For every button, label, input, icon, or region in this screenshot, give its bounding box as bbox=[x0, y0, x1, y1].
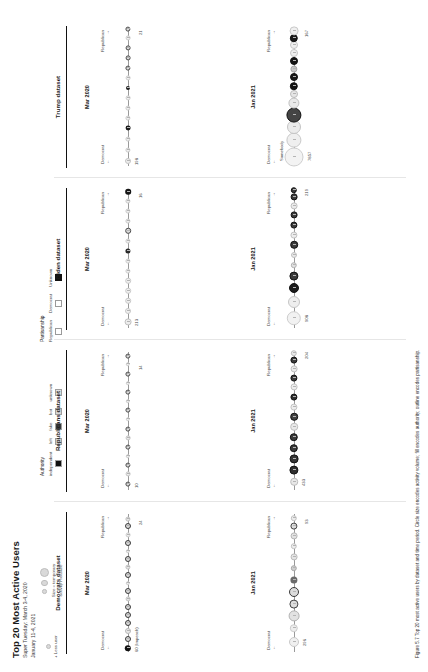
authority-legend-item-label: fake bbox=[48, 423, 53, 431]
axis-arrow-left-icon: ← bbox=[271, 631, 276, 650]
subtitle-line-1: Super Tuesday: March 3-4, 2020 bbox=[22, 508, 30, 658]
data-point[interactable] bbox=[285, 148, 304, 167]
data-point[interactable] bbox=[125, 319, 132, 326]
axis-tick bbox=[293, 591, 296, 592]
data-point[interactable] bbox=[290, 90, 298, 98]
axis-tick bbox=[293, 426, 296, 427]
data-point[interactable] bbox=[288, 296, 300, 308]
axis-tick bbox=[293, 30, 296, 31]
data-point[interactable] bbox=[286, 132, 301, 147]
axis-tick bbox=[293, 102, 296, 103]
data-point[interactable] bbox=[290, 57, 298, 65]
axis-tick bbox=[293, 525, 296, 526]
axis-tick bbox=[127, 230, 130, 231]
data-point[interactable] bbox=[290, 241, 298, 249]
data-point[interactable] bbox=[291, 252, 297, 258]
data-point[interactable] bbox=[291, 565, 297, 571]
axis-tick bbox=[127, 373, 130, 374]
axis-tick bbox=[127, 363, 130, 364]
data-point[interactable] bbox=[290, 423, 298, 431]
partisanship-legend-item-label: Republican bbox=[48, 320, 53, 342]
data-point[interactable] bbox=[290, 478, 298, 486]
data-point[interactable] bbox=[290, 356, 297, 363]
data-point[interactable] bbox=[125, 556, 131, 562]
data-point[interactable] bbox=[290, 221, 297, 228]
point-annotation: 60 (Impeach) bbox=[134, 627, 139, 652]
data-point[interactable] bbox=[288, 97, 299, 108]
data-point[interactable] bbox=[290, 82, 298, 90]
data-point[interactable] bbox=[125, 628, 131, 634]
data-point[interactable] bbox=[125, 612, 131, 618]
data-point[interactable] bbox=[289, 271, 298, 280]
data-point[interactable] bbox=[290, 576, 297, 583]
point-annotation: 213 bbox=[134, 319, 139, 326]
data-point[interactable] bbox=[290, 393, 297, 400]
axis-tick bbox=[127, 391, 130, 392]
axis-tick bbox=[127, 614, 130, 615]
axis-tick bbox=[127, 270, 130, 271]
axis-tick bbox=[127, 37, 130, 38]
axis-tick bbox=[293, 85, 296, 86]
data-point[interactable] bbox=[289, 283, 299, 293]
panel-rule bbox=[66, 188, 67, 330]
authority-legend-title: Authority bbox=[40, 384, 45, 476]
axis-label-democrat: Democrat← bbox=[266, 307, 276, 326]
data-point[interactable] bbox=[290, 433, 298, 441]
data-point[interactable] bbox=[125, 645, 131, 651]
axis-tick bbox=[293, 68, 296, 69]
data-point[interactable] bbox=[291, 554, 298, 561]
data-point[interactable] bbox=[289, 465, 298, 474]
axis-tick bbox=[127, 149, 130, 150]
data-point[interactable] bbox=[290, 73, 298, 81]
data-point[interactable] bbox=[290, 413, 298, 421]
data-point[interactable] bbox=[290, 374, 297, 381]
data-point[interactable] bbox=[291, 262, 297, 268]
data-point[interactable] bbox=[291, 350, 297, 356]
data-point[interactable] bbox=[125, 588, 131, 594]
data-point[interactable] bbox=[290, 27, 299, 36]
data-point[interactable] bbox=[290, 624, 298, 632]
data-point[interactable] bbox=[290, 403, 297, 410]
data-point[interactable] bbox=[291, 384, 298, 391]
data-point[interactable] bbox=[125, 158, 131, 164]
axis-tick bbox=[293, 264, 296, 265]
data-point[interactable] bbox=[290, 455, 299, 464]
data-point[interactable] bbox=[289, 611, 300, 622]
data-point[interactable] bbox=[125, 620, 131, 626]
data-point[interactable] bbox=[125, 572, 131, 578]
figure-stage: Top 20 Most Active Users Super Tuesday: … bbox=[0, 0, 428, 672]
axis-label-republican: Republican→ bbox=[100, 354, 110, 376]
axis-tick bbox=[293, 579, 296, 580]
data-point[interactable] bbox=[287, 311, 301, 325]
data-point[interactable] bbox=[290, 231, 297, 238]
axis-tick bbox=[127, 542, 130, 543]
data-point[interactable] bbox=[291, 515, 297, 521]
data-point[interactable] bbox=[125, 308, 131, 314]
data-point[interactable] bbox=[289, 599, 298, 608]
data-point[interactable] bbox=[291, 543, 297, 549]
axis-label-republican: Republican→ bbox=[100, 192, 110, 214]
data-point[interactable] bbox=[291, 203, 298, 210]
data-point[interactable] bbox=[291, 194, 298, 201]
axis-arrow-left-icon: ← bbox=[105, 145, 110, 164]
point-annotation: 433 bbox=[301, 479, 306, 486]
data-point[interactable] bbox=[290, 522, 297, 529]
data-point[interactable] bbox=[291, 187, 297, 193]
data-point[interactable] bbox=[125, 636, 131, 642]
axis-tick bbox=[127, 464, 130, 465]
data-point[interactable] bbox=[291, 212, 298, 219]
data-point[interactable] bbox=[125, 523, 131, 529]
data-point[interactable] bbox=[125, 604, 131, 610]
period-label: Mar 2020 bbox=[84, 508, 90, 658]
data-point[interactable] bbox=[290, 65, 297, 72]
data-point[interactable] bbox=[289, 587, 299, 597]
data-point[interactable] bbox=[291, 533, 298, 540]
data-point[interactable] bbox=[289, 637, 299, 647]
data-point[interactable] bbox=[290, 49, 298, 57]
data-point[interactable] bbox=[125, 540, 131, 546]
data-point[interactable] bbox=[291, 366, 298, 373]
data-point[interactable] bbox=[286, 107, 301, 122]
data-point[interactable] bbox=[290, 444, 298, 452]
axis-tick bbox=[127, 525, 130, 526]
panel-rule bbox=[66, 350, 67, 492]
